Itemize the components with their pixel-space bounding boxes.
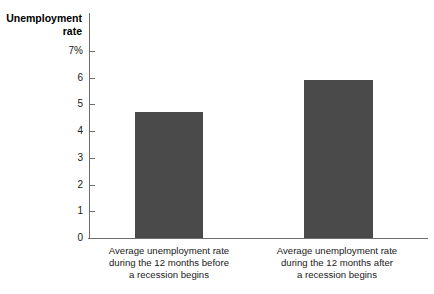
y-axis-tick-label: 3 (40, 153, 83, 163)
category-label-line-1: Average unemployment rate (96, 245, 242, 257)
chart-container: Unemployment rate 7%6543210 Average unem… (0, 0, 434, 294)
bar (304, 80, 373, 238)
y-axis-title-line-2: rate (0, 25, 82, 38)
y-axis-tick-label: 6 (40, 73, 83, 83)
y-axis-title: Unemployment rate (0, 12, 82, 38)
y-axis-title-line-1: Unemployment (0, 12, 82, 25)
category-label-line-1: Average unemployment rate (264, 245, 410, 257)
y-axis-tick-label: 5 (40, 99, 83, 109)
category-label-line-2: during the 12 months after (264, 257, 410, 269)
x-axis-line (88, 238, 428, 239)
y-axis-tick (89, 211, 95, 212)
y-axis-tick (89, 131, 95, 132)
category-label: Average unemployment rateduring the 12 m… (264, 245, 410, 282)
y-axis-tick-label: 2 (40, 180, 83, 190)
y-axis-tick (89, 158, 95, 159)
category-label-line-3: a recession begins (264, 269, 410, 281)
category-label-line-2: during the 12 months before (96, 257, 242, 269)
bar (135, 112, 203, 238)
y-axis-tick-label: 0 (40, 233, 83, 243)
y-axis-tick (89, 51, 95, 52)
category-label: Average unemployment rateduring the 12 m… (96, 245, 242, 282)
y-axis-tick (89, 185, 95, 186)
y-axis-tick-label: 4 (40, 126, 83, 136)
category-label-line-3: a recession begins (96, 269, 242, 281)
y-axis-tick (89, 78, 95, 79)
y-axis-tick (89, 238, 95, 239)
y-axis-tick-label: 1 (40, 206, 83, 216)
y-axis-tick (89, 104, 95, 105)
y-axis-line (89, 13, 90, 239)
y-axis-tick-label: 7% (40, 46, 83, 56)
